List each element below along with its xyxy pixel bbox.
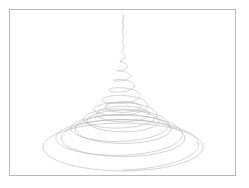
base-ring-4 [75, 115, 171, 144]
conical-helix-path [56, 15, 199, 170]
figure-root [0, 0, 249, 188]
plot-frame [9, 9, 236, 176]
conical-spiral-chart [10, 10, 236, 176]
spiral-path-group [43, 15, 203, 171]
base-ring-5 [61, 119, 185, 156]
